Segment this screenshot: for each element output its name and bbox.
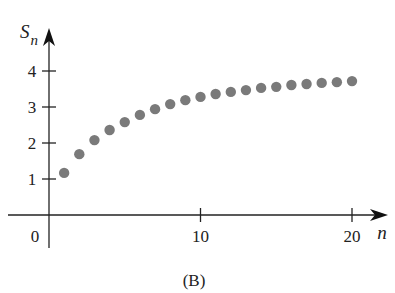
data-point [347,76,357,86]
x-axis-label: n [377,222,387,243]
data-point [120,117,130,127]
x-tick-label: 0 [31,227,40,246]
data-point [226,87,236,97]
data-point [301,79,311,89]
data-point [210,89,220,99]
y-tick-label: 2 [28,134,37,153]
chart: 123401020nSn (B) [0,0,395,293]
data-point [59,168,69,178]
data-point [271,82,281,92]
data-points [59,76,357,178]
y-tick-label: 1 [28,170,37,189]
data-point [317,78,327,88]
y-tick-label: 3 [28,98,37,117]
y-axis-label: Sn [20,21,38,48]
data-point [332,77,342,87]
data-point [195,92,205,102]
figure-caption: (B) [183,271,206,290]
data-point [180,95,190,105]
data-point [165,99,175,109]
data-point [104,125,114,135]
x-tick-label: 10 [192,227,209,246]
x-tick-label: 20 [344,227,361,246]
axes: 123401020nSn [8,21,388,248]
data-point [74,149,84,159]
data-point [135,110,145,120]
data-point [286,80,296,90]
data-point [89,135,99,145]
data-point [241,85,251,95]
y-tick-label: 4 [28,62,37,81]
data-point [256,83,266,93]
data-point [150,104,160,114]
